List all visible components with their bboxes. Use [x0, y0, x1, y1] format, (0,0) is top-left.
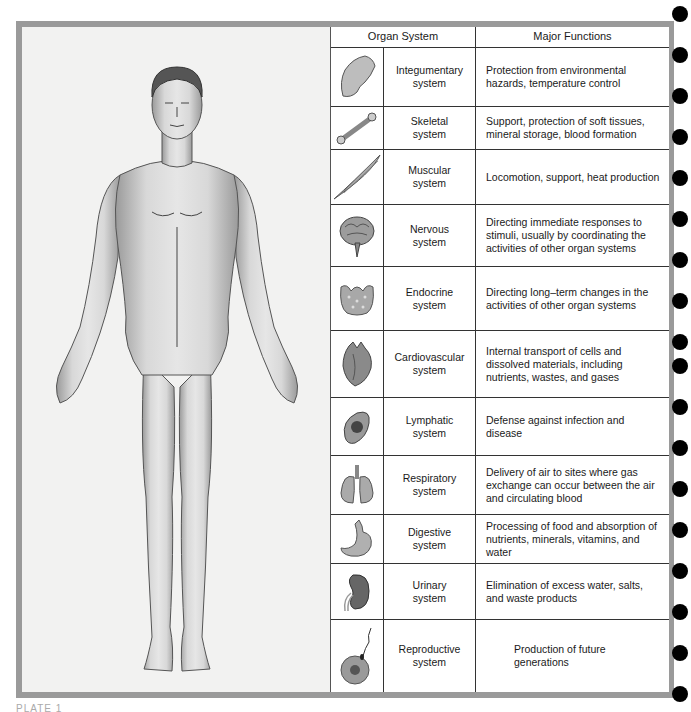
human-figure-panel	[22, 27, 330, 692]
binder-hole	[672, 440, 688, 456]
muscle-icon	[331, 150, 384, 204]
organ-name: Cardiovascular	[394, 351, 464, 364]
organ-function: Support, protection of soft tissues, min…	[476, 115, 669, 141]
binder-hole	[672, 604, 688, 620]
organ-name: Muscular	[408, 164, 451, 177]
plate-frame: Organ System Major Functions Integumenta…	[16, 21, 674, 698]
table-row: Respiratorysystem Delivery of air to sit…	[331, 456, 669, 515]
hand-icon	[331, 48, 384, 106]
heart-icon	[331, 331, 384, 397]
organ-function: Directing long–term changes in the activ…	[476, 286, 669, 312]
table-row: Muscularsystem Locomotion, support, heat…	[331, 150, 669, 205]
plate-label: PLATE 1	[16, 703, 62, 712]
binder-hole	[672, 47, 688, 63]
table-row: Skeletalsystem Support, protection of so…	[331, 107, 669, 150]
binder-hole	[672, 686, 688, 702]
organ-name: Endocrine	[406, 286, 453, 299]
binder-hole	[672, 399, 688, 415]
human-body-illustration	[22, 27, 330, 692]
organ-name: Lymphatic	[406, 414, 453, 427]
organ-name: Reproductive	[399, 643, 461, 656]
organ-name: Nervous	[410, 223, 449, 236]
binder-hole	[672, 211, 688, 227]
binder-hole	[672, 88, 688, 104]
organ-function: Elimination of excess water, salts, and …	[476, 579, 669, 605]
binder-hole	[672, 481, 688, 497]
binder-hole	[672, 563, 688, 579]
binder-hole	[672, 6, 688, 22]
organ-name: Urinary	[413, 579, 447, 592]
binder-hole	[672, 334, 688, 350]
organ-name: Integumentary	[396, 64, 463, 77]
ovum-sperm-icon	[331, 620, 384, 692]
spleen-icon	[331, 398, 384, 455]
bone-icon	[331, 107, 384, 149]
organ-function: Delivery of air to sites where gas excha…	[476, 466, 669, 505]
organ-function: Processing of food and absorption of nut…	[476, 520, 669, 559]
organ-function: Protection from environmental hazards, t…	[476, 64, 669, 90]
binder-hole	[672, 252, 688, 268]
organ-name: Skeletal	[411, 115, 448, 128]
table-header: Organ System Major Functions	[331, 27, 669, 48]
table-row: Reproductivesystem Production of future …	[331, 620, 669, 692]
organ-name: Respiratory	[403, 472, 457, 485]
table-row: Nervoussystem Directing immediate respon…	[331, 205, 669, 267]
table-row: Lymphaticsystem Defense against infectio…	[331, 398, 669, 456]
binder-holes	[669, 0, 691, 712]
binder-hole	[672, 358, 688, 374]
table-row: Digestivesystem Processing of food and a…	[331, 515, 669, 564]
table-row: Endocrinesystem Directing long–term chan…	[331, 267, 669, 331]
binder-hole	[672, 522, 688, 538]
organ-function: Internal transport of cells and dissolve…	[476, 345, 669, 384]
binder-hole	[672, 645, 688, 661]
organ-function: Defense against infection and disease	[476, 414, 669, 440]
brain-icon	[331, 205, 384, 266]
organ-systems-table: Organ System Major Functions Integumenta…	[330, 27, 669, 692]
thyroid-icon	[331, 267, 384, 330]
table-row: Urinarysystem Elimination of excess wate…	[331, 564, 669, 620]
table-row: Integumentarysystem Protection from envi…	[331, 48, 669, 107]
kidney-icon	[331, 564, 384, 619]
header-organ-system: Organ System	[331, 30, 475, 42]
stomach-icon	[331, 515, 384, 563]
organ-function: Locomotion, support, heat production	[476, 171, 665, 184]
lungs-icon	[331, 456, 384, 514]
organ-function: Production of future generations	[476, 643, 669, 669]
table-row: Cardiovascularsystem Internal transport …	[331, 331, 669, 398]
binder-hole	[672, 293, 688, 309]
organ-function: Directing immediate responses to stimuli…	[476, 216, 669, 255]
header-major-functions: Major Functions	[476, 30, 669, 42]
binder-hole	[672, 170, 688, 186]
organ-name: Digestive	[408, 526, 451, 539]
binder-hole	[672, 129, 688, 145]
